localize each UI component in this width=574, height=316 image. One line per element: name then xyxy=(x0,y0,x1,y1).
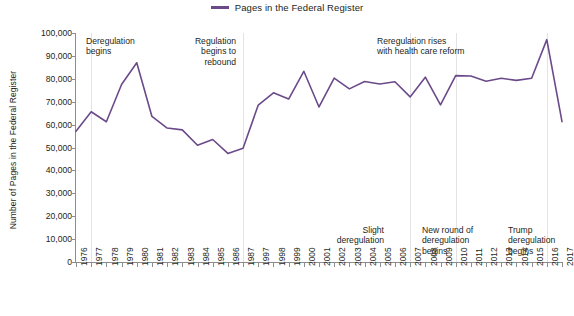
x-axis-tick-label: 1977 xyxy=(94,247,104,266)
x-axis-tick-label: 2010 xyxy=(459,247,469,266)
x-axis-tick-label: 2009 xyxy=(444,247,454,266)
x-axis-tick-label: 2014 xyxy=(520,247,530,266)
y-axis-tick-label: 40,000 xyxy=(46,165,72,175)
x-axis-tick-label: 2012 xyxy=(489,247,499,266)
x-axis-tick-label: 2007 xyxy=(413,247,423,266)
x-axis-tick-label: 1985 xyxy=(216,247,226,266)
x-axis-tick-label: 1984 xyxy=(201,247,211,266)
y-axis-tick-label: 80,000 xyxy=(46,74,72,84)
x-axis-tick-label: 1980 xyxy=(140,247,150,266)
annotation-slight-deregulation: Slight deregulation xyxy=(312,225,384,246)
x-axis-tick-label: 2008 xyxy=(429,247,439,266)
x-axis-tick-label: 2011 xyxy=(474,248,484,266)
x-axis-tick-label: 2004 xyxy=(368,247,378,266)
x-axis-tick-label: 1982 xyxy=(170,247,180,266)
annotation-reregulation-health-care: Reregulation rises with health care refo… xyxy=(377,36,507,57)
x-axis-tick-label: 2003 xyxy=(353,247,363,266)
x-axis-tick-label: 2017 xyxy=(565,247,574,266)
x-axis-tick-label: 2006 xyxy=(398,247,408,266)
x-axis-tick-label: 2005 xyxy=(383,247,393,266)
x-axis-tick-label: 1999 xyxy=(292,247,302,266)
y-axis-tick-labels: 010,00020,00030,00040,00050,00060,00070,… xyxy=(14,33,72,262)
y-axis-tick-label: 60,000 xyxy=(46,120,72,130)
x-axis-tick-label: 1983 xyxy=(186,247,196,266)
y-axis-tick-label: 70,000 xyxy=(46,97,72,107)
annotation-deregulation-begins: Deregulation begins xyxy=(86,36,160,57)
y-axis-tick-label: 50,000 xyxy=(46,143,72,153)
x-axis-tick-label: 2016 xyxy=(550,247,560,266)
x-axis-tick-label: 1987 xyxy=(246,247,256,266)
x-axis-tick-label: 1979 xyxy=(125,247,135,266)
x-axis-tick-label: 2015 xyxy=(535,247,545,266)
x-axis-tick-label: 1986 xyxy=(231,247,241,266)
y-axis-tick-label: 10,000 xyxy=(46,234,72,244)
legend-label: Pages in the Federal Register xyxy=(235,2,364,13)
y-axis-tick-label: 90,000 xyxy=(46,51,72,61)
x-axis-tick-label: 2001 xyxy=(322,247,332,266)
y-axis-tick-label: 100,000 xyxy=(41,28,72,38)
x-axis-tick-label: 2000 xyxy=(307,247,317,266)
x-axis-tick-label: 2013 xyxy=(504,247,514,266)
legend-color-swatch xyxy=(211,6,229,9)
x-axis-tick-label: 1981 xyxy=(155,247,165,266)
annotation-regulation-rebound: Regulation begins to rebound xyxy=(160,36,236,67)
y-axis-tick-label: 20,000 xyxy=(46,211,72,221)
x-axis-tick-labels: 1976197719781979198019811982198319841985… xyxy=(0,266,574,316)
x-axis-tick-label: 2002 xyxy=(337,247,347,266)
x-axis-tick-label: 1976 xyxy=(79,247,89,266)
chart-container: Pages in the Federal Register Number of … xyxy=(0,0,574,316)
x-axis-tick-label: 1998 xyxy=(277,247,287,266)
chart-legend: Pages in the Federal Register xyxy=(0,2,574,13)
x-axis-tick-label: 1978 xyxy=(110,247,120,266)
x-axis-tick-label: 1997 xyxy=(261,247,271,266)
y-axis-tick-label: 30,000 xyxy=(46,188,72,198)
